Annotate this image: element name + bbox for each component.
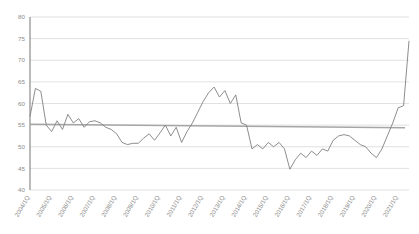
x-axis-tick-label: 2008/1Q	[100, 194, 118, 218]
y-axis-tick-label: 55	[18, 121, 25, 128]
x-axis-tick-label: 2014/1Q	[230, 194, 248, 218]
x-axis-tick-label: 2006/1Q	[56, 194, 74, 218]
x-axis-tick-label: 2018/1Q	[316, 194, 334, 218]
y-axis-tick-label: 70	[18, 56, 25, 63]
x-axis-tick-label: 2017/1Q	[294, 194, 312, 218]
y-axis-tick-label: 50	[18, 143, 25, 150]
y-axis-tick-labels: 404550556065707580	[18, 13, 25, 193]
y-axis-tick-label: 45	[18, 165, 25, 172]
x-axis-tick-label: 2007/1Q	[78, 194, 96, 218]
chart-container: 404550556065707580 2004/1Q2005/1Q2006/1Q…	[0, 0, 419, 234]
line-chart: 404550556065707580 2004/1Q2005/1Q2006/1Q…	[0, 0, 419, 234]
x-axis-tick-label: 2011/1Q	[165, 194, 183, 218]
y-axis-tick-label: 80	[18, 13, 25, 20]
x-axis-tick-label: 2019/1Q	[338, 194, 356, 218]
x-axis-tick-label: 2021/1Q	[381, 194, 399, 218]
x-axis-tick-label: 2015/1Q	[251, 194, 269, 218]
y-axis-tick-label: 60	[18, 100, 25, 107]
y-axis-tick-label: 65	[18, 78, 25, 85]
y-axis-tick-label: 40	[18, 186, 25, 193]
x-axis-tick-label: 2009/1Q	[121, 194, 139, 218]
x-axis-tick-label: 2013/1Q	[208, 194, 226, 218]
x-axis-tick-label: 2016/1Q	[273, 194, 291, 218]
x-axis-tick-label: 2020/1Q	[359, 194, 377, 218]
x-axis-tick-label: 2005/1Q	[35, 194, 53, 218]
gridlines	[30, 17, 409, 190]
y-axis-tick-label: 75	[18, 35, 25, 42]
x-axis-tick-labels: 2004/1Q2005/1Q2006/1Q2007/1Q2008/1Q2009/…	[13, 194, 399, 218]
x-axis-tick-label: 2012/1Q	[186, 194, 204, 218]
x-axis-tick-label: 2004/1Q	[13, 194, 31, 218]
x-axis-tick-label: 2010/1Q	[143, 194, 161, 218]
